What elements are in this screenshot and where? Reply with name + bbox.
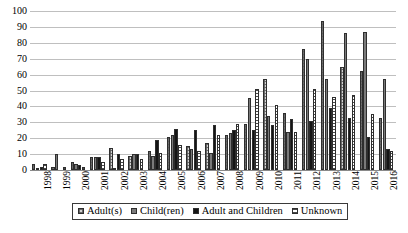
bar xyxy=(371,114,374,170)
x-axis-tick-label: 2002 xyxy=(121,171,131,190)
x-axis-tick-label: 2001 xyxy=(101,171,111,190)
y-axis-tick-label: 70 xyxy=(17,54,27,64)
bar xyxy=(63,167,66,170)
legend-swatch-icon xyxy=(131,208,137,214)
bar-group xyxy=(146,11,165,170)
bar-group xyxy=(203,11,222,170)
bar-group xyxy=(338,11,357,170)
bar-group xyxy=(107,11,126,170)
bar xyxy=(197,151,200,170)
x-axis-tick-label: 2010 xyxy=(275,171,285,190)
bar-chart: 0102030405060708090100 19981999200020012… xyxy=(0,0,408,233)
bar xyxy=(313,89,316,170)
x-axis-tick-label: 2015 xyxy=(371,171,381,190)
bar xyxy=(82,167,85,170)
y-axis-labels: 0102030405060708090100 xyxy=(0,11,27,170)
bar xyxy=(275,105,278,170)
x-axis-tick-label: 2008 xyxy=(236,171,246,190)
y-axis-tick-label: 10 xyxy=(17,149,27,159)
bar xyxy=(236,124,239,170)
bar xyxy=(159,153,162,170)
x-axis-tick-label: 2006 xyxy=(198,171,208,190)
x-axis-tick-label: 2016 xyxy=(390,171,400,190)
legend-label: Adult and Children xyxy=(202,205,283,217)
x-axis-tick-label: 2014 xyxy=(352,171,362,190)
x-axis-tick-label: 1998 xyxy=(44,171,54,190)
bar xyxy=(120,159,123,170)
y-axis-tick-label: 0 xyxy=(22,165,27,175)
bar xyxy=(352,95,355,170)
x-axis-tick-label: 2011 xyxy=(294,171,304,190)
y-axis-tick-label: 50 xyxy=(17,86,27,96)
x-axis-tick-label: 2005 xyxy=(178,171,188,190)
legend-label: Unknown xyxy=(301,205,342,217)
bar-group xyxy=(165,11,184,170)
legend-swatch-icon xyxy=(292,208,298,214)
bar xyxy=(101,162,104,170)
bar-group xyxy=(88,11,107,170)
bar xyxy=(109,148,112,170)
x-axis-tick-label: 2003 xyxy=(140,171,150,190)
x-axis-tick-label: 2012 xyxy=(313,171,323,190)
bar xyxy=(255,89,258,170)
bar xyxy=(217,135,220,170)
x-axis-tick-label: 2004 xyxy=(159,171,169,190)
bar-group xyxy=(357,11,376,170)
bars-layer xyxy=(30,11,396,170)
bar-group xyxy=(223,11,242,170)
legend-item[interactable]: Adult(s) xyxy=(78,205,122,217)
y-axis-tick-label: 60 xyxy=(17,70,27,80)
y-axis-tick-label: 30 xyxy=(17,117,27,127)
bar xyxy=(43,164,46,170)
y-axis-tick-label: 100 xyxy=(12,6,27,16)
bar xyxy=(140,159,143,170)
legend-item[interactable]: Child(ren) xyxy=(131,205,184,217)
bar xyxy=(390,151,393,170)
bar xyxy=(178,145,181,170)
bar-group xyxy=(319,11,338,170)
x-axis-tick-label: 2009 xyxy=(256,171,266,190)
bar-group xyxy=(184,11,203,170)
bar-group xyxy=(30,11,49,170)
bar xyxy=(332,97,335,170)
y-axis-tick-label: 20 xyxy=(17,133,27,143)
y-axis-tick-label: 40 xyxy=(17,101,27,111)
legend-item[interactable]: Adult and Children xyxy=(193,205,283,217)
bar-group xyxy=(49,11,68,170)
x-axis-tick-label: 2007 xyxy=(217,171,227,190)
y-axis-tick-label: 80 xyxy=(17,38,27,48)
x-axis-labels: 1998199920002001200220032004200520062007… xyxy=(30,171,396,199)
y-axis-tick-label: 90 xyxy=(17,22,27,32)
x-axis-tick-label: 2013 xyxy=(333,171,343,190)
bar xyxy=(55,154,58,170)
bar-group xyxy=(126,11,145,170)
x-axis-tick-label: 1999 xyxy=(63,171,73,190)
bar xyxy=(294,132,297,170)
bar-group xyxy=(300,11,319,170)
legend-label: Adult(s) xyxy=(87,205,122,217)
x-axis-tick-label: 2000 xyxy=(82,171,92,190)
bar-group xyxy=(377,11,396,170)
bar-group xyxy=(69,11,88,170)
bar-group xyxy=(261,11,280,170)
bar-group xyxy=(242,11,261,170)
legend-swatch-icon xyxy=(193,208,199,214)
chart-legend: Adult(s)Child(ren)Adult and ChildrenUnkn… xyxy=(72,203,348,220)
legend-swatch-icon xyxy=(78,208,84,214)
bar-group xyxy=(280,11,299,170)
plot-area xyxy=(30,11,396,170)
legend-item[interactable]: Unknown xyxy=(292,205,342,217)
legend-label: Child(ren) xyxy=(140,205,184,217)
